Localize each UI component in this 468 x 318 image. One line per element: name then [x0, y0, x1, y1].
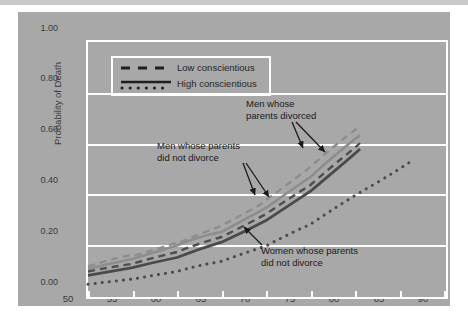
- y-tick-label-0-60: 0.60: [18, 124, 58, 134]
- y-axis-title: Probability of Death: [52, 29, 63, 179]
- annotation-men-divorced: Men whose parents divorced: [246, 98, 316, 121]
- annotation-men-not-divorced: Men whose parents did not divorce: [157, 140, 240, 163]
- x-tick-label-50: 50: [53, 293, 83, 304]
- annotation-men-not-divorced-line1: Men whose parents: [157, 140, 240, 152]
- y-tick-label-1-00: 1.00: [18, 23, 58, 33]
- legend-label-high-conscientious: High conscientious: [177, 78, 257, 89]
- annotation-men-divorced-line2: parents divorced: [246, 110, 316, 122]
- annotation-women-not-divorced-line1: Women whose parents: [261, 245, 358, 257]
- legend-label-low-conscientious: Low conscientious: [177, 62, 255, 73]
- y-tick-label-0-40: 0.40: [18, 175, 58, 185]
- y-tick-label-0-20: 0.20: [18, 226, 58, 236]
- annotation-men-divorced-line1: Men whose: [246, 98, 316, 110]
- legend: Low conscientious High conscientious: [111, 56, 271, 96]
- legend-swatch-solid-dotted: [119, 78, 173, 90]
- top-band-decoration: [0, 0, 468, 5]
- y-tick-label-0-00: 0.00: [18, 277, 58, 287]
- legend-swatch-dashed: [119, 62, 173, 74]
- y-tick-label-0-80: 0.80: [18, 73, 58, 83]
- annotation-men-not-divorced-line2: did not divorce: [157, 152, 240, 164]
- annotation-women-not-divorced: Women whose parents did not divorce: [261, 245, 358, 268]
- figure-root: Probability of Death 1.00 0.80 0.60 0.40…: [0, 0, 468, 318]
- annotation-women-not-divorced-line2: did not divorce: [261, 257, 358, 269]
